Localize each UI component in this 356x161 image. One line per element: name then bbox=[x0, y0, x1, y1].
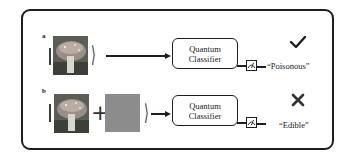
classifier-label-line2: Classifier bbox=[189, 111, 222, 121]
checkmark-icon bbox=[289, 35, 307, 53]
measurement-meter-icon bbox=[246, 117, 257, 128]
arrow-head-icon bbox=[165, 53, 171, 59]
mushroom-image bbox=[53, 36, 88, 75]
cross-icon bbox=[290, 92, 306, 112]
quantum-classifier-box: Quantum Classifier bbox=[172, 38, 238, 69]
measurement-meter-icon bbox=[246, 60, 257, 71]
output-label: “Edible” bbox=[279, 120, 309, 130]
arrow-head-icon bbox=[165, 111, 171, 117]
gray-noise-square bbox=[105, 94, 140, 132]
mushroom-image bbox=[54, 94, 89, 133]
wire-to-meter bbox=[237, 65, 246, 67]
ket-open-bar bbox=[49, 48, 51, 65]
classifier-label-line1: Quantum bbox=[189, 44, 221, 54]
wire-to-output bbox=[257, 123, 266, 125]
ket-close-angle: ⟩ bbox=[91, 44, 96, 66]
classifier-label-line1: Quantum bbox=[189, 101, 221, 111]
arrow-to-classifier bbox=[151, 113, 166, 115]
panel-label-a: a bbox=[42, 33, 46, 40]
arrow-to-classifier bbox=[106, 55, 166, 57]
ket-close-angle: ⟩ bbox=[144, 102, 149, 124]
wire-to-meter bbox=[237, 122, 246, 124]
quantum-classifier-box: Quantum Classifier bbox=[172, 95, 238, 126]
classifier-label-line2: Classifier bbox=[189, 54, 222, 64]
wire-to-output bbox=[257, 66, 266, 68]
ket-open-bar bbox=[49, 104, 51, 122]
panel-label-b: b bbox=[42, 88, 46, 95]
output-label: “Poisonous” bbox=[267, 61, 310, 71]
